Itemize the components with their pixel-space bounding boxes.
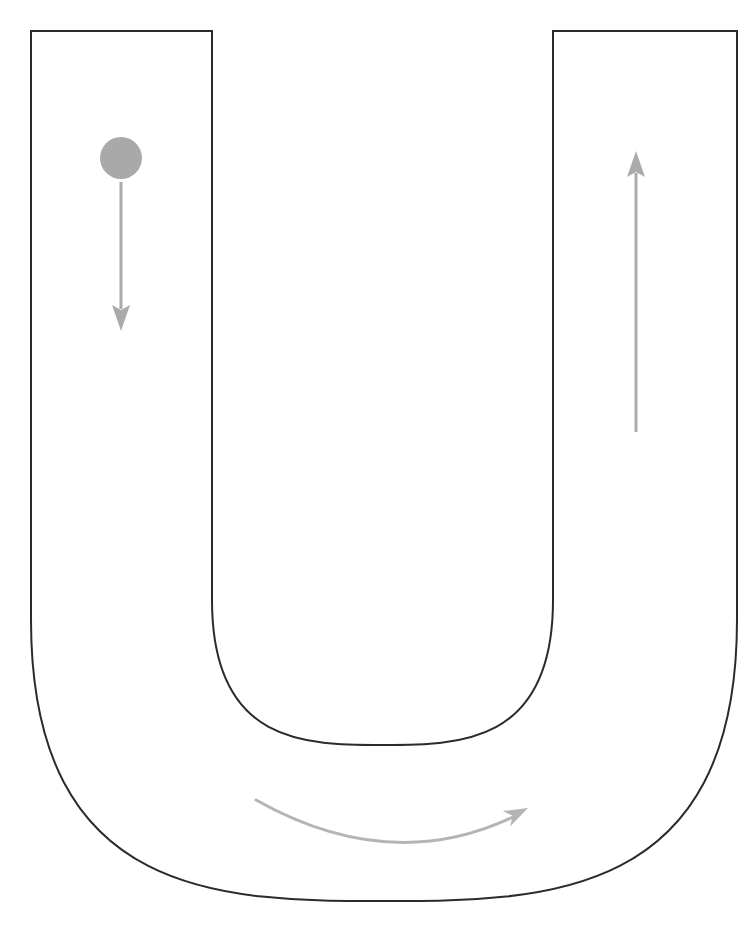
gray-ball [100, 137, 142, 179]
diagram-canvas [0, 0, 748, 935]
u-tube-figure [0, 0, 748, 935]
